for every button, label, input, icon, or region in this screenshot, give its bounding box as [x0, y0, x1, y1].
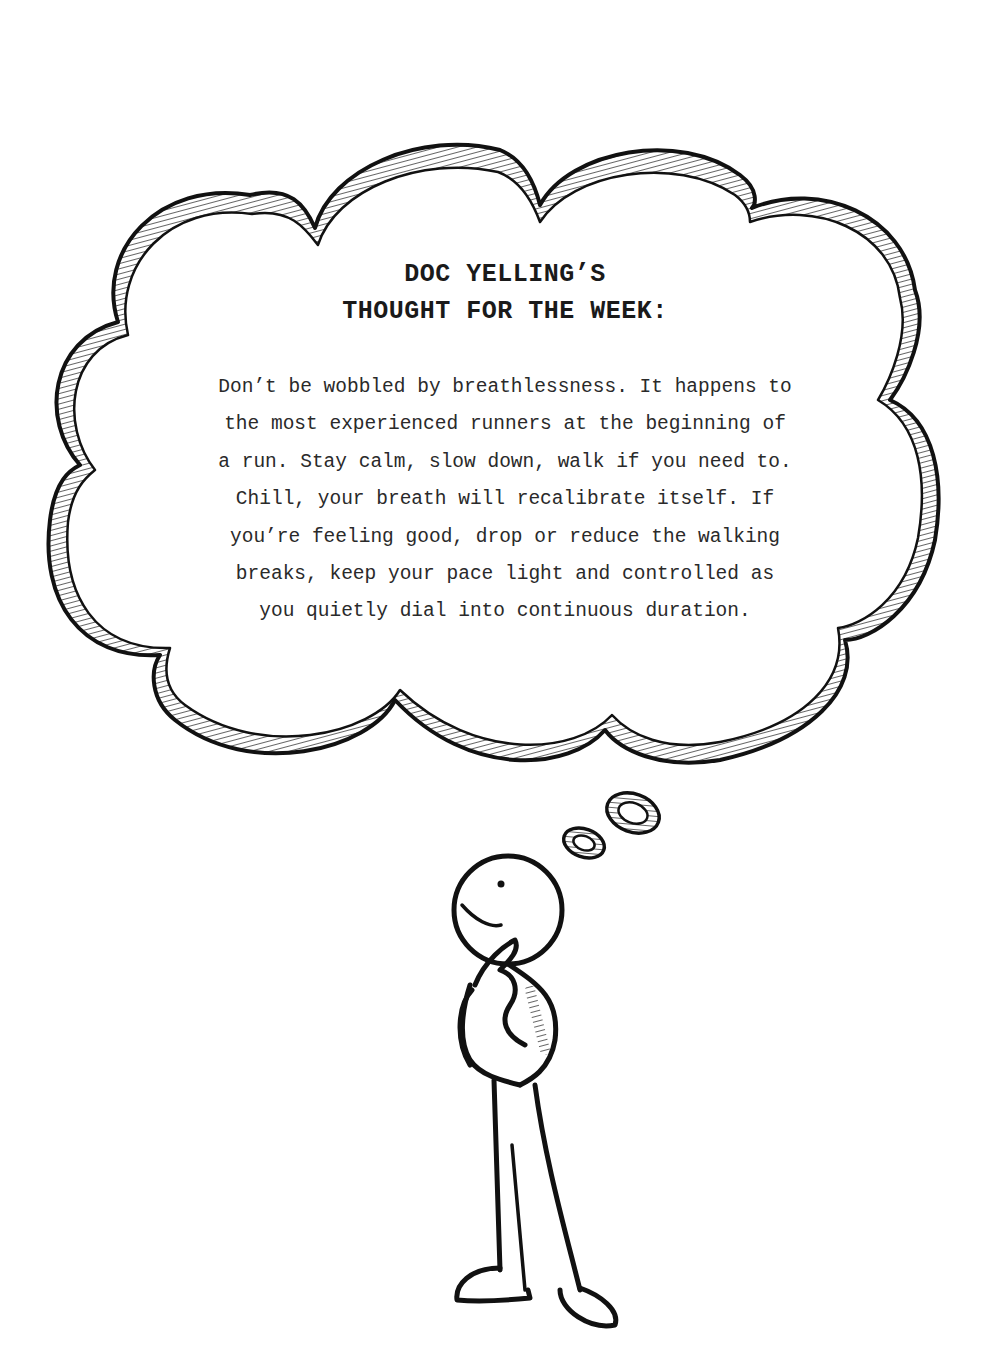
title-line-1: DOC YELLING’S [200, 256, 810, 293]
thought-body: Don’t be wobbled by breathlessness. It h… [150, 369, 860, 631]
body-line: you’re feeling good, drop or reduce the … [150, 519, 860, 556]
title-line-2: THOUGHT FOR THE WEEK: [200, 293, 810, 330]
thought-bubble-icon [559, 786, 664, 863]
body-line: Chill, your breath will recalibrate itse… [150, 481, 860, 518]
body-line: Don’t be wobbled by breathlessness. It h… [150, 369, 860, 406]
illustration [0, 0, 984, 1354]
body-line: breaks, keep your pace light and control… [150, 556, 860, 593]
page-title: DOC YELLING’S THOUGHT FOR THE WEEK: [200, 256, 810, 330]
body-line: you quietly dial into continuous duratio… [150, 593, 860, 630]
page: DOC YELLING’S THOUGHT FOR THE WEEK: Don’… [0, 0, 984, 1354]
thinking-stick-figure-icon [454, 856, 616, 1326]
body-line: the most experienced runners at the begi… [150, 406, 860, 443]
body-line: a run. Stay calm, slow down, walk if you… [150, 444, 860, 481]
